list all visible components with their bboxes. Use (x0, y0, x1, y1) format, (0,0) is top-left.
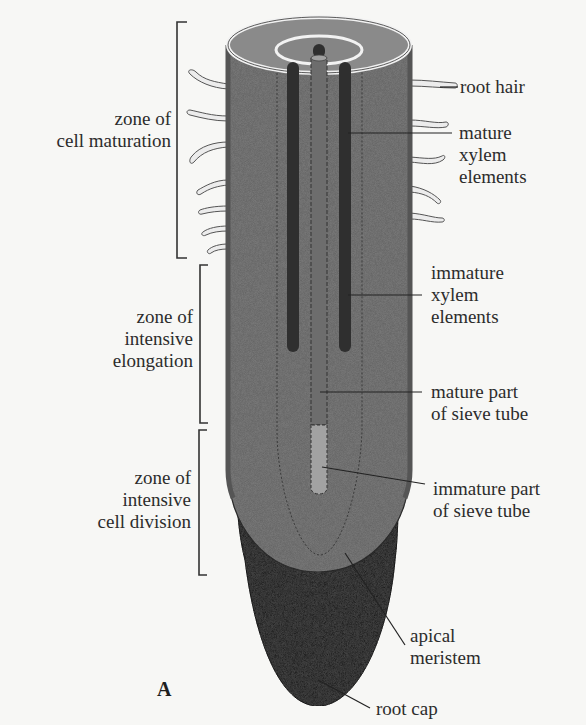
bracket-elongation (200, 265, 208, 423)
bracket-division (199, 430, 207, 575)
xylem-right (339, 62, 351, 352)
sieve-tube-mature (311, 58, 327, 425)
label-mature-sieve-tube: mature part of sieve tube (431, 381, 528, 425)
label-root-hair: root hair (460, 76, 525, 98)
sieve-tube-immature (311, 425, 327, 494)
zone-label-maturation: zone of cell maturation (57, 108, 171, 152)
zone-label-elongation: zone of intensive elongation (113, 306, 193, 372)
zone-label-division: zone of intensive cell division (98, 467, 191, 533)
label-immature-xylem: immature xylem elements (431, 262, 504, 328)
label-immature-sieve-tube: immature part of sieve tube (433, 478, 540, 522)
xylem-left (287, 62, 299, 352)
bracket-maturation (177, 22, 187, 258)
label-root-cap: root cap (376, 698, 438, 720)
panel-letter: A (157, 678, 171, 701)
label-mature-xylem: mature xylem elements (459, 122, 527, 188)
label-apical-meristem: apical meristem (410, 625, 481, 669)
